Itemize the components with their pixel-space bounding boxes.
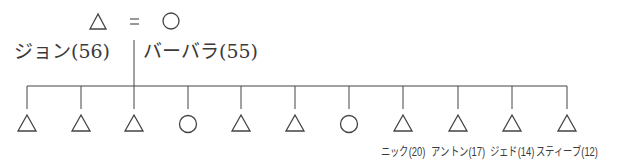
- mother-name: バーバラ(55): [143, 36, 258, 63]
- child-label: アントン(17): [431, 142, 485, 159]
- male-triangle-icon: [394, 115, 412, 131]
- child-label: ジェド(14): [490, 142, 535, 159]
- mother-circle-icon: [163, 13, 179, 29]
- male-triangle-icon: [449, 115, 467, 131]
- father-name: ジョン(56): [14, 36, 110, 63]
- child-label: スティーブ(12): [536, 142, 598, 159]
- male-triangle-icon: [558, 115, 576, 131]
- female-circle-icon: [180, 116, 197, 133]
- male-triangle-icon: [18, 115, 36, 131]
- family-tree-lines: [0, 0, 624, 163]
- male-triangle-icon: [72, 115, 90, 131]
- male-triangle-icon: [232, 115, 250, 131]
- male-triangle-icon: [286, 115, 304, 131]
- female-circle-icon: [341, 116, 358, 133]
- male-triangle-icon: [125, 115, 143, 131]
- male-triangle-icon: [503, 115, 521, 131]
- child-label: ニック(20): [381, 142, 426, 159]
- father-triangle-icon: [90, 14, 106, 29]
